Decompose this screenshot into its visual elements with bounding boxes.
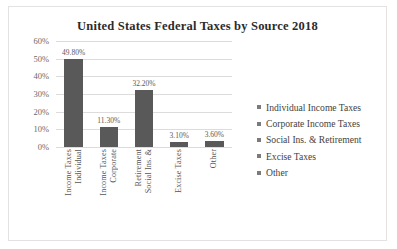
y-axis: 60%50%40%30%20%10%0% xyxy=(15,41,53,147)
y-axis-tick-label: 50% xyxy=(33,54,49,64)
bar-series: 49.80%11.30%32.20%3.10%3.60% xyxy=(56,41,232,147)
x-axis-category-line: Excise Taxes xyxy=(174,149,184,193)
chart-frame: United States Federal Taxes by Source 20… xyxy=(8,6,387,241)
y-axis-tick-label: 10% xyxy=(33,124,49,134)
bar-value-label: 32.20% xyxy=(132,79,155,88)
y-axis-tick-label: 0% xyxy=(38,142,49,152)
y-axis-tick-label: 20% xyxy=(33,107,49,117)
plot-area: 49.80%11.30%32.20%3.10%3.60% xyxy=(56,41,232,147)
legend-item[interactable]: Corporate Income Taxes xyxy=(257,115,397,131)
legend-item-label: Excise Taxes xyxy=(266,151,316,162)
bar-value-label: 11.30% xyxy=(97,116,120,125)
legend-item[interactable]: Other xyxy=(257,165,397,181)
chart-title: United States Federal Taxes by Source 20… xyxy=(9,19,386,34)
y-axis-tick-label: 60% xyxy=(33,36,49,46)
x-axis: IndividualIncome TaxesCorporateIncome Ta… xyxy=(56,149,232,221)
x-axis-category-line: Social Ins. & xyxy=(144,149,154,193)
legend-marker-icon xyxy=(257,154,261,158)
bar xyxy=(100,127,118,147)
bar xyxy=(135,90,153,147)
x-axis-category-line: Income Taxes xyxy=(64,149,74,196)
bar-value-label: 3.60% xyxy=(205,130,224,139)
y-axis-tick-label: 30% xyxy=(33,89,49,99)
legend-marker-icon xyxy=(257,171,261,175)
legend-item-label: Corporate Income Taxes xyxy=(266,118,360,129)
bar-value-label: 3.10% xyxy=(170,131,189,140)
y-axis-tick-label: 40% xyxy=(33,71,49,81)
bar xyxy=(64,59,82,147)
x-axis-category-line: Individual xyxy=(74,149,84,184)
x-axis-category-line: Income Taxes xyxy=(99,149,109,196)
legend-item[interactable]: Social Ins. & Retirement xyxy=(257,132,397,148)
x-axis-category-line: Corporate xyxy=(109,149,119,183)
legend-item-label: Social Ins. & Retirement xyxy=(266,134,361,145)
legend-marker-icon xyxy=(257,138,261,142)
bar xyxy=(205,141,223,147)
bar-value-label: 49.80% xyxy=(62,48,85,57)
bar xyxy=(170,142,188,147)
legend-item[interactable]: Individual Income Taxes xyxy=(257,99,397,115)
legend-item-label: Other xyxy=(266,167,288,178)
x-axis-category-line: Other xyxy=(209,149,219,168)
legend-item-label: Individual Income Taxes xyxy=(266,102,361,113)
x-axis-category-line: Retirement xyxy=(134,149,144,186)
chart-legend: Individual Income TaxesCorporate Income … xyxy=(257,99,397,181)
legend-marker-icon xyxy=(257,122,261,126)
legend-marker-icon xyxy=(257,105,261,109)
legend-item[interactable]: Excise Taxes xyxy=(257,148,397,164)
